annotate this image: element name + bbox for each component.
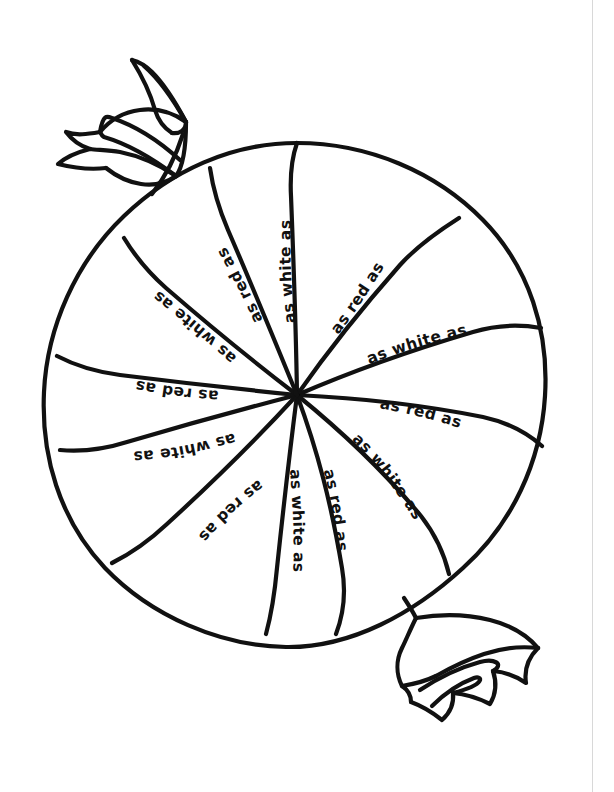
segment-label-1: as white as bbox=[276, 219, 299, 324]
coloring-page: as white as as red as as white as as red… bbox=[0, 0, 614, 792]
segment-label-2: as red as bbox=[327, 259, 388, 338]
segment-label-6: as red as bbox=[320, 467, 352, 553]
segment-label-5: as white as bbox=[349, 430, 427, 523]
segment-label-11: as white as bbox=[149, 287, 239, 367]
scan-edge-line bbox=[592, 0, 593, 792]
spiral-arm-9 bbox=[60, 395, 297, 451]
segment-label-3: as white as bbox=[364, 321, 469, 368]
swirl-candy-illustration: as white as as red as as white as as red… bbox=[0, 0, 614, 792]
top-left-wrapper-twist bbox=[58, 60, 186, 194]
segment-label-7: as white as bbox=[286, 468, 308, 572]
spiral-arm-2 bbox=[297, 218, 459, 395]
segment-label-4: as red as bbox=[379, 395, 464, 432]
spiral-arm-11 bbox=[124, 238, 297, 395]
bottom-right-wrapper-twist bbox=[398, 598, 539, 720]
